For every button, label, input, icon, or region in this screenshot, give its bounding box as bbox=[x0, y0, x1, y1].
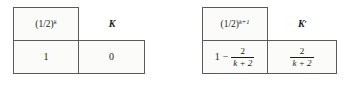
prime-mark: ′ bbox=[305, 19, 308, 29]
table-right-body-cell-value-b: 2 k + 2 bbox=[268, 40, 337, 74]
table-right-header-cell-variable: K′ bbox=[268, 7, 337, 41]
leading-term: 1 bbox=[215, 52, 220, 62]
variable-letter: K bbox=[109, 18, 116, 29]
table-left-header-cell-variable: K bbox=[79, 7, 145, 41]
fraction-base: (1/2) bbox=[221, 20, 239, 30]
fraction-denominator: k + 2 bbox=[290, 58, 313, 68]
expression-fraction-only: 2 k + 2 bbox=[289, 47, 314, 68]
math-expression-half-power-k-plus-one: (1/2)k+1 bbox=[221, 20, 250, 30]
table-right-body-row: 1 − 2 k + 2 2 k + 2 bbox=[202, 40, 337, 74]
math-expression-half-power-k: (1/2)k bbox=[35, 20, 56, 30]
variable-k-symbol: K bbox=[109, 19, 116, 29]
probability-table-left: (1/2)k K 1 0 bbox=[13, 7, 145, 75]
minus-operator: − bbox=[223, 52, 229, 62]
value-one: 1 bbox=[44, 52, 49, 62]
fraction-numerator: 2 bbox=[239, 47, 248, 57]
variable-k-prime-symbol: K′ bbox=[298, 19, 307, 29]
table-right-body-cell-value-a: 1 − 2 k + 2 bbox=[202, 40, 268, 74]
table-right-header-cell-probability: (1/2)k+1 bbox=[202, 7, 268, 41]
table-left-body-cell-value-a: 1 bbox=[13, 40, 79, 74]
table-left-header-row: (1/2)k K bbox=[13, 7, 145, 41]
table-left-body-cell-value-b: 0 bbox=[79, 40, 145, 74]
table-left-header-cell-probability: (1/2)k bbox=[13, 7, 79, 41]
expression-one-minus-fraction: 1 − 2 k + 2 bbox=[215, 47, 256, 68]
fraction-denominator: k + 2 bbox=[231, 58, 254, 68]
value-zero: 0 bbox=[109, 52, 114, 62]
table-right-header-row: (1/2)k+1 K′ bbox=[202, 7, 337, 41]
math-tables-figure: (1/2)k K 1 0 (1/2)k+1 K′ bbox=[0, 0, 347, 85]
probability-table-right: (1/2)k+1 K′ 1 − 2 k + 2 bbox=[202, 7, 337, 75]
fraction-two-over-k-plus-two: 2 k + 2 bbox=[231, 47, 254, 68]
table-left-body-row: 1 0 bbox=[13, 40, 145, 74]
fraction-base: (1/2) bbox=[35, 20, 53, 30]
fraction-two-over-k-plus-two: 2 k + 2 bbox=[290, 47, 313, 68]
fraction-numerator: 2 bbox=[298, 47, 307, 57]
variable-letter: K bbox=[298, 18, 305, 29]
